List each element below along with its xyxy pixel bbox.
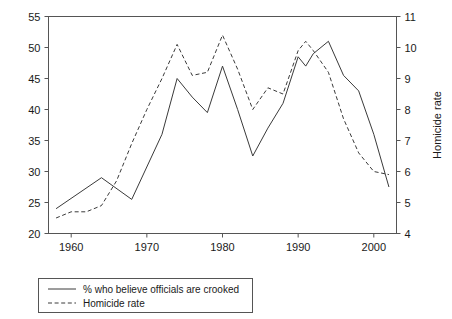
y-axis-left-tick-label: 45: [28, 73, 40, 85]
x-axis-tick-label: 1990: [286, 241, 310, 253]
y-axis-right-tick-label: 4: [405, 228, 411, 240]
y-axis-right-tick-marks: [397, 17, 401, 234]
y-axis-left-tick-label: 50: [28, 42, 40, 54]
y-axis-right-tick-label: 5: [405, 197, 411, 209]
y-axis-left-tick-label: 40: [28, 104, 40, 116]
chart-figure: 2025303540455055 4567891011 196019701980…: [0, 0, 452, 319]
y-axis-right-tick-label: 7: [405, 135, 411, 147]
y-axis-left-tick-label: 20: [28, 228, 40, 240]
y-axis-right-tick-label: 11: [405, 11, 416, 23]
y-axis-left-tick-labels: 2025303540455055: [28, 11, 40, 240]
chart-legend: % who believe officials are crooked Homi…: [39, 279, 253, 313]
y-axis-right-title: Homicide rate: [431, 91, 443, 159]
legend-label-homicide-rate: Homicide rate: [83, 298, 145, 309]
series-line-officials-crooked: [56, 41, 389, 208]
chart-svg: 2025303540455055 4567891011 196019701980…: [0, 0, 452, 319]
y-axis-left-tick-label: 55: [28, 11, 40, 23]
series-line-homicide-rate: [56, 35, 389, 218]
legend-label-officials-crooked: % who believe officials are crooked: [83, 284, 239, 295]
y-axis-left-tick-marks: [45, 17, 49, 234]
x-axis-tick-label: 1960: [59, 241, 83, 253]
y-axis-right-tick-labels: 4567891011: [405, 11, 417, 240]
y-axis-right-tick-label: 8: [405, 104, 411, 116]
y-axis-right-tick-label: 6: [405, 166, 411, 178]
y-axis-right-tick-label: 9: [405, 73, 411, 85]
x-axis-tick-label: 2000: [362, 241, 386, 253]
x-axis-tick-label: 1970: [135, 241, 159, 253]
y-axis-right-tick-label: 10: [405, 42, 417, 54]
y-axis-left-tick-label: 25: [28, 197, 40, 209]
x-axis-tick-marks: [71, 234, 374, 238]
plot-frame: [49, 17, 397, 234]
x-axis-tick-label: 1980: [210, 241, 234, 253]
y-axis-left-tick-label: 30: [28, 166, 40, 178]
y-axis-left-tick-label: 35: [28, 135, 40, 147]
x-axis-tick-labels: 19601970198019902000: [59, 241, 386, 253]
